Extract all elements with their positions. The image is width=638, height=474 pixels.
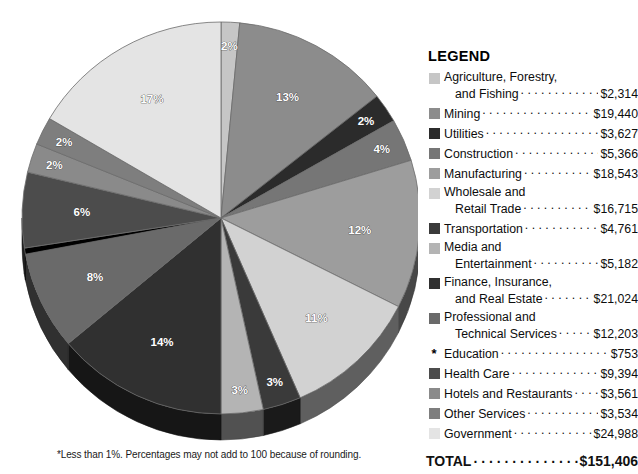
legend-item-amount: $3,627 xyxy=(600,127,638,142)
dot-leader xyxy=(534,255,599,268)
legend-item-value-line: Education$753 xyxy=(444,345,638,362)
legend-swatch-cell xyxy=(424,310,444,324)
legend-swatch-cell xyxy=(424,385,444,399)
pie-slice-percent-label: 17% xyxy=(140,93,163,105)
legend-item-amount: $19,440 xyxy=(594,107,638,122)
legend-item-label-text: Finance, Insurance, xyxy=(444,275,552,290)
legend-item[interactable]: Government$24,988 xyxy=(424,425,638,442)
legend-item-label-text: Education xyxy=(444,347,499,362)
legend-color-swatch xyxy=(429,148,440,159)
legend-item-label-text: Other Services xyxy=(444,407,525,422)
legend-item-label-text: Hotels and Restaurants xyxy=(444,387,573,402)
legend-item-label-text: Government xyxy=(444,427,512,442)
dot-leader xyxy=(515,145,598,158)
dot-leader xyxy=(523,200,591,213)
legend-item[interactable]: Media andEntertainment$5,182 xyxy=(424,240,638,272)
legend-color-swatch xyxy=(429,278,440,289)
total-leader xyxy=(473,451,577,466)
legend-item-amount: $2,314 xyxy=(600,87,638,102)
legend-item-body: Construction$5,366 xyxy=(444,145,638,162)
legend-item-value-line: Entertainment$5,182 xyxy=(444,255,638,272)
chart-footnote: *Less than 1%. Percentages may not add t… xyxy=(0,449,418,460)
legend-item[interactable]: Health Care$9,394 xyxy=(424,365,638,382)
legend-swatch-cell xyxy=(424,405,444,419)
legend-item-body: Transportation$4,761 xyxy=(444,220,638,237)
legend-item-body: Media andEntertainment$5,182 xyxy=(444,240,638,272)
legend-item-body: Agriculture, Forestry,and Fishing$2,314 xyxy=(444,70,638,102)
legend-item-amount: $5,366 xyxy=(600,147,638,162)
legend-item-body: Professional andTechnical Services$12,20… xyxy=(444,310,638,342)
legend-item[interactable]: Wholesale andRetail Trade$16,715 xyxy=(424,185,638,217)
legend-item[interactable]: Other Services$3,534 xyxy=(424,405,638,422)
legend-item-body: Wholesale andRetail Trade$16,715 xyxy=(444,185,638,217)
legend-item-label-text: Utilities xyxy=(444,127,484,142)
legend-item-amount: $3,534 xyxy=(600,407,638,422)
dot-leader xyxy=(486,125,599,138)
pie-slice-percent-label: 2% xyxy=(358,115,375,127)
dot-leader xyxy=(501,345,609,358)
legend-list: Agriculture, Forestry,and Fishing$2,314M… xyxy=(424,70,638,442)
legend-item-label-text: Manufacturing xyxy=(444,167,522,182)
legend-item-value-line: Hotels and Restaurants$3,561 xyxy=(444,385,638,402)
legend-item-value-line: Utilities$3,627 xyxy=(444,125,638,142)
pie-slice-percent-label: 12% xyxy=(348,224,371,236)
legend-item-label: Finance, Insurance, xyxy=(444,275,638,290)
total-amount: $151,406 xyxy=(580,453,638,469)
pie-chart-panel: 2%13%2%4%12%11%3%3%14%8%6%2%2%17% *Less … xyxy=(0,0,418,474)
legend-swatch-cell xyxy=(424,125,444,139)
legend-swatch-cell: * xyxy=(424,345,444,359)
dot-leader xyxy=(527,405,598,418)
pie-slice-percent-label: 6% xyxy=(73,206,90,218)
legend-swatch-cell xyxy=(424,220,444,234)
legend-item-label-text-2: Retail Trade xyxy=(455,202,521,217)
legend-item-value-line: Manufacturing$18,543 xyxy=(444,165,638,182)
legend-item[interactable]: Finance, Insurance,and Real Estate$21,02… xyxy=(424,275,638,307)
legend-item[interactable]: Construction$5,366 xyxy=(424,145,638,162)
total-label: TOTAL xyxy=(426,453,471,469)
legend-item-value-line: Health Care$9,394 xyxy=(444,365,638,382)
legend-color-swatch xyxy=(429,73,440,84)
legend-title: LEGEND xyxy=(428,48,638,64)
legend-item-value-line: and Fishing$2,314 xyxy=(444,85,638,102)
legend-item-value-line: Transportation$4,761 xyxy=(444,220,638,237)
legend-item[interactable]: Manufacturing$18,543 xyxy=(424,165,638,182)
legend-swatch-cell xyxy=(424,365,444,379)
legend-item-body: Utilities$3,627 xyxy=(444,125,638,142)
legend-item[interactable]: *Education$753 xyxy=(424,345,638,362)
legend-item[interactable]: Utilities$3,627 xyxy=(424,125,638,142)
legend-item-label-text: Health Care xyxy=(444,367,510,382)
legend-item-body: Health Care$9,394 xyxy=(444,365,638,382)
legend-item[interactable]: Hotels and Restaurants$3,561 xyxy=(424,385,638,402)
legend-item-label-text-2: and Fishing xyxy=(455,87,519,102)
legend-swatch-cell xyxy=(424,240,444,254)
legend-item-body: Hotels and Restaurants$3,561 xyxy=(444,385,638,402)
legend-color-swatch xyxy=(429,243,440,254)
legend-total-row: TOTAL $151,406 xyxy=(424,451,638,469)
legend-item[interactable]: Agriculture, Forestry,and Fishing$2,314 xyxy=(424,70,638,102)
pie-slice-percent-label: 4% xyxy=(373,143,390,155)
legend-item-value-line: Mining$19,440 xyxy=(444,105,638,122)
legend-item-label-text: Agriculture, Forestry, xyxy=(444,70,557,85)
dot-leader xyxy=(512,365,599,378)
legend-item-amount: $18,543 xyxy=(594,167,638,182)
legend-item[interactable]: Mining$19,440 xyxy=(424,105,638,122)
legend-color-swatch xyxy=(429,223,440,234)
dot-leader xyxy=(521,85,599,98)
legend-item-amount: $5,182 xyxy=(600,257,638,272)
legend-item-amount: $12,203 xyxy=(594,327,638,342)
legend-item-value-line: Construction$5,366 xyxy=(444,145,638,162)
legend-item-amount: $9,394 xyxy=(600,367,638,382)
legend-item-value-line: Government$24,988 xyxy=(444,425,638,442)
legend-item[interactable]: Professional andTechnical Services$12,20… xyxy=(424,310,638,342)
legend-swatch-cell xyxy=(424,70,444,84)
pie-slice-percent-label: 2% xyxy=(221,40,238,52)
legend-swatch-cell xyxy=(424,185,444,199)
pie-slice-percent-label: 2% xyxy=(46,159,63,171)
dot-leader xyxy=(575,385,599,398)
legend-item-value-line: Retail Trade$16,715 xyxy=(444,200,638,217)
legend-color-swatch xyxy=(429,188,440,199)
legend-item[interactable]: Transportation$4,761 xyxy=(424,220,638,237)
legend-color-swatch xyxy=(429,168,440,179)
legend-swatch-cell xyxy=(424,165,444,179)
legend-color-swatch xyxy=(429,428,440,439)
